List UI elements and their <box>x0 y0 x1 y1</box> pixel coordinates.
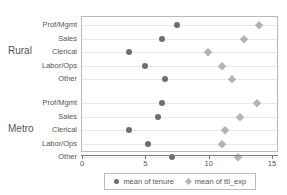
plot-area <box>81 16 278 152</box>
data-point-tenure <box>159 100 165 106</box>
data-point-tenure <box>126 127 132 133</box>
legend-label-tenure: mean of tenure <box>123 177 173 186</box>
data-point-tenure <box>162 76 168 82</box>
gridline <box>82 103 277 104</box>
category-label: Other <box>0 74 77 83</box>
gridline <box>82 130 277 131</box>
dot-plot-chart: Rural Metro Prof/MgmtSalesClericalLabor/… <box>0 0 287 195</box>
x-axis <box>81 155 278 156</box>
data-point-ttl-exp <box>218 140 226 148</box>
data-point-tenure <box>155 114 161 120</box>
x-tick-label: 0 <box>80 159 84 168</box>
category-label: Prof/Mgmt <box>0 98 77 107</box>
category-label: Clerical <box>0 125 77 134</box>
gridline <box>82 117 277 118</box>
data-point-ttl-exp <box>255 21 263 29</box>
category-label: Clerical <box>0 47 77 56</box>
data-point-ttl-exp <box>221 126 229 134</box>
diamond-marker-icon <box>185 178 192 185</box>
legend-label-ttl-exp: mean of ttl_exp <box>195 177 246 186</box>
data-point-tenure <box>159 36 165 42</box>
x-tick-label: 5 <box>143 159 147 168</box>
gridline <box>82 52 277 53</box>
data-point-ttl-exp <box>236 113 244 121</box>
data-point-ttl-exp <box>205 48 213 56</box>
circle-marker-icon <box>114 179 120 185</box>
category-label: Other <box>0 152 77 161</box>
data-point-ttl-exp <box>253 99 261 107</box>
category-label: Prof/Mgmt <box>0 20 77 29</box>
data-point-ttl-exp <box>240 35 248 43</box>
x-tick-label: 10 <box>204 159 212 168</box>
legend-item-ttl-exp: mean of ttl_exp <box>186 177 246 186</box>
category-label: Labor/Ops <box>0 60 77 69</box>
data-point-tenure <box>142 63 148 69</box>
gridline <box>82 79 277 80</box>
data-point-tenure <box>126 49 132 55</box>
category-label: Sales <box>0 111 77 120</box>
gridline <box>82 144 277 145</box>
gridline <box>82 157 277 158</box>
data-point-tenure <box>145 141 151 147</box>
data-point-ttl-exp <box>229 76 237 84</box>
gridline <box>82 66 277 67</box>
data-point-tenure <box>174 22 180 28</box>
category-label: Sales <box>0 33 77 42</box>
legend-item-tenure: mean of tenure <box>114 177 174 186</box>
x-tick-label: 15 <box>268 159 276 168</box>
data-point-ttl-exp <box>218 62 226 70</box>
chart-legend: mean of tenure mean of ttl_exp <box>104 173 256 190</box>
category-label: Labor/Ops <box>0 138 77 147</box>
